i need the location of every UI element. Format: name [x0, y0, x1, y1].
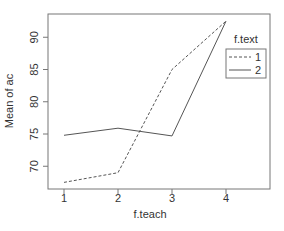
y-tick-label: 70: [28, 160, 40, 172]
legend-entry-2: 2: [255, 64, 261, 76]
legend-title: f.text: [234, 33, 258, 45]
series-line-1: [64, 21, 226, 182]
y-tick-label: 80: [28, 96, 40, 108]
y-axis: 7075808590: [28, 31, 48, 172]
x-tick-label: 2: [115, 192, 121, 204]
legend: f.text 1 2: [226, 33, 266, 78]
y-axis-label: Mean of ac: [3, 73, 15, 128]
y-tick-label: 85: [28, 63, 40, 75]
series-line-2: [64, 21, 226, 136]
x-tick-label: 1: [61, 192, 67, 204]
interaction-plot: 7075808590 1234 f.teach Mean of ac f.tex…: [0, 0, 284, 231]
x-tick-label: 4: [223, 192, 229, 204]
x-axis: 1234: [61, 189, 229, 204]
y-tick-label: 75: [28, 128, 40, 140]
y-tick-label: 90: [28, 31, 40, 43]
legend-entry-1: 1: [255, 51, 261, 63]
x-axis-label: f.teach: [133, 208, 166, 220]
series-lines: [64, 21, 226, 182]
x-tick-label: 3: [169, 192, 175, 204]
